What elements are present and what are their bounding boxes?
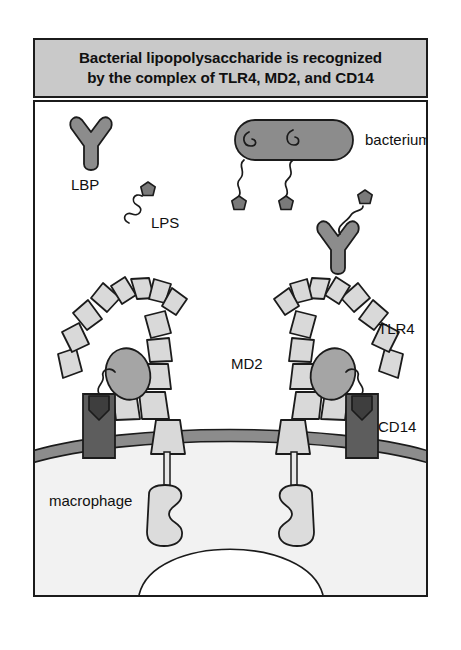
lps-on-bacterium-2 bbox=[279, 160, 293, 210]
bacterium-label: bacterium bbox=[365, 131, 426, 148]
figure-title-bar: Bacterial lipopolysaccharide is recogniz… bbox=[33, 38, 428, 98]
tlr4-stem-segment bbox=[151, 420, 185, 454]
lbp-label: LBP bbox=[71, 176, 99, 193]
diagram-svg: bacterium LBP LPS bbox=[35, 102, 426, 595]
tlr4-segment bbox=[139, 392, 169, 419]
diagram-canvas: bacterium LBP LPS bbox=[33, 100, 428, 597]
title-line-1: Bacterial lipopolysaccharide is recogniz… bbox=[79, 49, 382, 66]
tlr4-stem-segment bbox=[276, 420, 310, 454]
lbp-lps-complex-group bbox=[317, 190, 372, 274]
tlr4-label: TLR4 bbox=[378, 320, 415, 337]
lps-tail bbox=[285, 160, 293, 196]
tlr4-segment bbox=[147, 338, 172, 362]
figure-title: Bacterial lipopolysaccharide is recogniz… bbox=[79, 48, 382, 88]
tlr4-segment bbox=[379, 348, 403, 378]
lps-on-bacterium-1 bbox=[232, 160, 246, 210]
lps-head bbox=[141, 182, 155, 196]
tlr4-segment bbox=[289, 338, 314, 362]
lps-tail bbox=[238, 160, 244, 196]
lps-head bbox=[232, 196, 246, 210]
bacterium-group: bacterium bbox=[232, 120, 426, 210]
md2-label: MD2 bbox=[231, 355, 263, 372]
md2-group bbox=[100, 343, 362, 405]
macrophage-label: macrophage bbox=[49, 492, 132, 509]
lps-label: LPS bbox=[151, 214, 179, 231]
lbp-free-group: LBP bbox=[70, 117, 111, 193]
lps-free-group: LPS bbox=[125, 182, 180, 231]
tlr4-segment bbox=[145, 311, 171, 338]
cd14-label: CD14 bbox=[378, 418, 416, 435]
lps-head bbox=[279, 196, 293, 210]
lps-tail bbox=[125, 195, 142, 223]
lps-head bbox=[358, 190, 372, 204]
lbp-molecule bbox=[317, 221, 358, 274]
tlr4-segment bbox=[290, 311, 316, 338]
title-line-2: by the complex of TLR4, MD2, and CD14 bbox=[87, 69, 374, 86]
tlr4-segment bbox=[58, 348, 82, 378]
lbp-molecule bbox=[70, 117, 111, 170]
tlr4-segment bbox=[292, 392, 322, 419]
figure-panel: Bacterial lipopolysaccharide is recogniz… bbox=[33, 38, 428, 597]
